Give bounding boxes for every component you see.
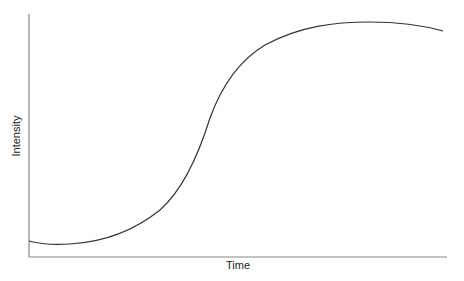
y-axis-label: Intensity [10,114,22,158]
chart-canvas [0,0,464,281]
intensity-curve [29,22,443,244]
x-axis-label: Time [226,259,250,271]
